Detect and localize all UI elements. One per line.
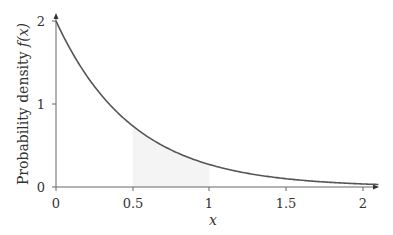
y-ticks [52, 21, 56, 187]
x-tick-label: 0.5 [123, 196, 144, 211]
y-axis-arrow-icon [54, 13, 59, 19]
y-axis-label: Probability density f(x) [15, 23, 31, 185]
x-tick-label: 2 [359, 196, 367, 211]
x-tick-label: 1 [205, 196, 213, 211]
density-curve [56, 21, 378, 185]
y-tick-label: 2 [37, 14, 45, 29]
x-tick-label: 0 [52, 196, 60, 211]
x-tick-label: 1.5 [276, 196, 297, 211]
pdf-chart: 0 0.5 1 1.5 2 0 1 2 x Probability densit… [0, 0, 393, 235]
y-tick-label: 1 [37, 97, 45, 112]
y-tick-label: 0 [37, 180, 45, 195]
x-ticks [56, 187, 363, 191]
x-axis-label: x [209, 212, 217, 228]
